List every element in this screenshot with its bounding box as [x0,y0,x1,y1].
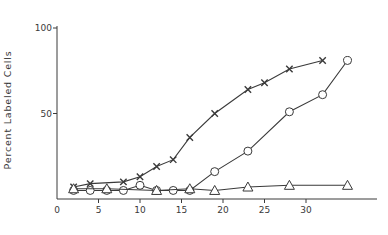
cross-marker [170,156,176,162]
circle-marker [211,168,219,176]
series-line [74,185,348,190]
cross-marker [212,110,218,116]
line-chart: 05101520253050100 Percent Labeled Cells [0,0,388,235]
series-circles [70,56,352,194]
circle-marker [319,91,327,99]
circle-marker [285,108,293,116]
x-tick-label: 15 [176,205,187,215]
cross-marker [137,174,143,180]
circle-marker [119,186,127,194]
x-tick-label: 5 [96,205,102,215]
x-tick-label: 25 [259,205,270,215]
x-tick-label: 20 [217,205,229,215]
circle-marker [86,186,94,194]
circle-marker [169,186,177,194]
cross-marker [153,163,159,169]
circle-marker [136,181,144,189]
y-axis-label: Percent Labeled Cells [2,51,13,170]
x-tick-label: 0 [54,205,60,215]
cross-marker [261,80,267,86]
x-tick-label: 10 [134,205,146,215]
circle-marker [244,147,252,155]
data-series [69,56,353,194]
cross-marker [187,134,193,140]
y-tick-label: 100 [35,23,52,33]
cross-marker [319,57,325,63]
y-tick-label: 50 [41,109,53,119]
circle-marker [344,56,352,64]
cross-marker [245,86,251,92]
series-line [74,60,323,187]
x-tick-label: 30 [300,205,312,215]
cross-marker [286,66,292,72]
series-crosses [70,57,325,190]
axes: 05101520253050100 [35,23,377,215]
